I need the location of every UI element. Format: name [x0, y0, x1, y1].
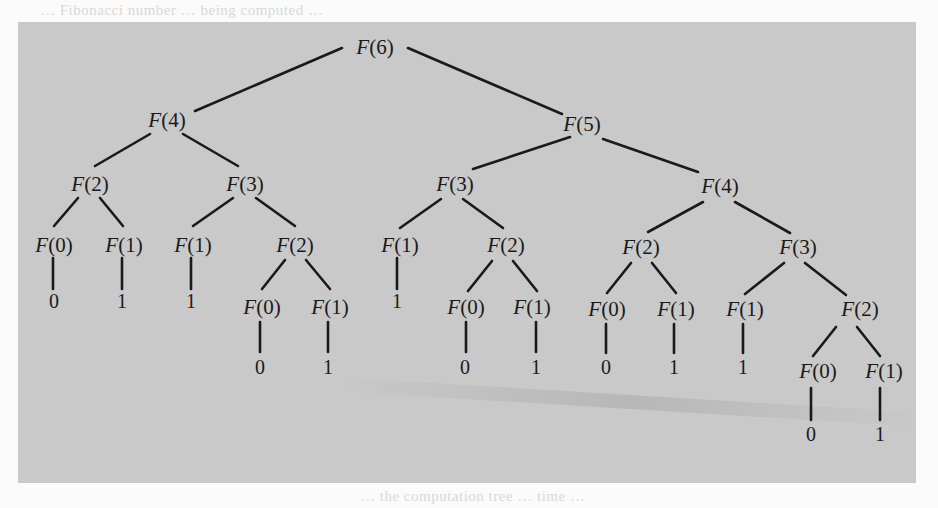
function-symbol: F — [563, 112, 576, 136]
function-argument: (2) — [84, 172, 109, 196]
tree-node-f0: F(0) — [447, 297, 484, 318]
function-symbol: F — [799, 359, 812, 383]
function-symbol: F — [356, 35, 369, 59]
function-symbol: F — [657, 297, 670, 321]
function-symbol: F — [148, 108, 161, 132]
function-symbol: F — [105, 233, 118, 257]
tree-node-f2: F(2) — [622, 237, 659, 258]
tree-node-f1: F(1) — [381, 235, 418, 256]
function-symbol: F — [381, 233, 394, 257]
tree-edge-n22-n24 — [857, 327, 880, 356]
tree-edge-n10-n15 — [262, 260, 285, 289]
tree-edge-n13-n19 — [607, 263, 631, 293]
function-symbol: F — [726, 297, 739, 321]
tree-node-f0: F(0) — [588, 299, 625, 320]
function-argument: (2) — [500, 233, 525, 257]
tree-node-f5: F(5) — [563, 114, 600, 135]
tree-edge-n3-n7 — [54, 198, 78, 226]
function-argument: (4) — [714, 174, 739, 198]
function-argument: (0) — [601, 297, 626, 321]
tree-edge-n2-n6 — [603, 139, 698, 172]
function-argument: (1) — [526, 295, 551, 319]
tree-node-f2: F(2) — [276, 235, 313, 256]
leaf-value: 0 — [460, 357, 470, 377]
tree-edge-n5-n11 — [400, 199, 441, 228]
tree-node-f1: F(1) — [174, 235, 211, 256]
tree-edge-n1-n3 — [95, 134, 150, 166]
function-argument: (2) — [289, 233, 314, 257]
function-symbol: F — [622, 235, 635, 259]
function-argument: (3) — [792, 235, 817, 259]
function-symbol: F — [226, 172, 239, 196]
function-argument: (3) — [449, 172, 474, 196]
function-symbol: F — [243, 295, 256, 319]
leaf-value: 1 — [117, 291, 127, 311]
function-argument: (0) — [460, 295, 485, 319]
function-symbol: F — [71, 172, 84, 196]
function-argument: (4) — [161, 108, 186, 132]
leaf-value: 1 — [392, 291, 402, 311]
tree-node-f0: F(0) — [243, 297, 280, 318]
function-symbol: F — [276, 233, 289, 257]
tree-node-f4: F(4) — [701, 176, 738, 197]
tree-node-f0: F(0) — [35, 235, 72, 256]
tree-edge-n12-n17 — [468, 261, 492, 291]
tree-edge-n2-n5 — [473, 137, 570, 169]
tree-edge-n4-n9 — [193, 198, 233, 226]
function-argument: (2) — [635, 235, 660, 259]
function-symbol: F — [779, 235, 792, 259]
tree-node-f4: F(4) — [148, 110, 185, 131]
leaf-value: 0 — [255, 357, 265, 377]
tree-edge-n14-n22 — [805, 263, 846, 295]
tree-node-f1: F(1) — [105, 235, 142, 256]
function-symbol: F — [588, 297, 601, 321]
leaf-value: 0 — [601, 357, 611, 377]
tree-node-f3: F(3) — [436, 174, 473, 195]
leaf-value: 1 — [738, 357, 748, 377]
tree-node-f2: F(2) — [487, 235, 524, 256]
leaf-value: 0 — [806, 424, 816, 444]
tree-node-f3: F(3) — [779, 237, 816, 258]
tree-edge-n6-n13 — [648, 202, 703, 232]
tree-node-f2: F(2) — [71, 174, 108, 195]
tree-node-f1: F(1) — [657, 299, 694, 320]
function-symbol: F — [487, 233, 500, 257]
leaf-value: 1 — [875, 424, 885, 444]
function-symbol: F — [841, 297, 854, 321]
function-argument: (1) — [739, 297, 764, 321]
leaf-value: 1 — [669, 357, 679, 377]
function-argument: (2) — [854, 297, 879, 321]
tree-node-f2: F(2) — [841, 299, 878, 320]
tree-node-f0: F(0) — [799, 361, 836, 382]
function-argument: (1) — [118, 233, 143, 257]
leaf-value: 1 — [531, 357, 541, 377]
function-symbol: F — [311, 295, 324, 319]
tree-node-f1: F(1) — [311, 297, 348, 318]
function-symbol: F — [436, 172, 449, 196]
tree-node-f1: F(1) — [726, 299, 763, 320]
tree-edge-n10-n16 — [306, 260, 330, 289]
function-symbol: F — [447, 295, 460, 319]
tree-edge-n5-n12 — [463, 199, 503, 228]
tree-node-f1: F(1) — [513, 297, 550, 318]
function-symbol: F — [35, 233, 48, 257]
leaf-value: 1 — [186, 291, 196, 311]
function-symbol: F — [865, 359, 878, 383]
function-argument: (6) — [369, 35, 394, 59]
function-symbol: F — [174, 233, 187, 257]
tree-node-f6: F(6) — [356, 37, 393, 58]
tree-edge-n13-n20 — [652, 263, 676, 293]
tree-edge-n0-n2 — [408, 48, 562, 114]
tree-edge-n6-n14 — [735, 202, 790, 233]
tree-edge-n22-n23 — [813, 327, 836, 356]
function-argument: (0) — [256, 295, 281, 319]
tree-node-f3: F(3) — [226, 174, 263, 195]
function-argument: (1) — [878, 359, 903, 383]
function-argument: (1) — [670, 297, 695, 321]
tree-edge-n4-n10 — [256, 198, 295, 226]
function-argument: (1) — [187, 233, 212, 257]
leaf-value: 0 — [49, 291, 59, 311]
tree-edge-n0-n1 — [195, 48, 342, 111]
tree-edge-n3-n8 — [100, 198, 123, 226]
leaf-value: 1 — [323, 357, 333, 377]
